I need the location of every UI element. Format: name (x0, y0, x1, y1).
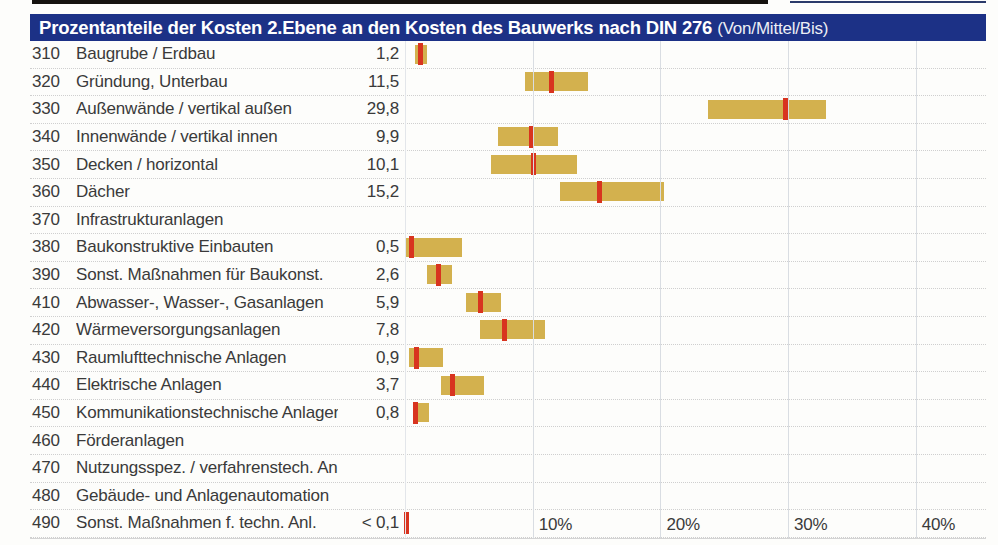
row-mittel-value: 0,5 (338, 237, 405, 257)
row-code: 340 (30, 127, 76, 147)
row-label: Abwasser-, Wasser-, Gasanlagen (76, 293, 338, 313)
table-row-380: 380Baukonstruktive Einbauten0,5 (30, 234, 986, 262)
table-row-320: 320Gründung, Unterbau11,5 (30, 69, 986, 97)
row-mittel-value: 15,2 (338, 182, 405, 202)
mittel-marker (783, 98, 788, 120)
mittel-marker (529, 126, 534, 148)
range-bar (441, 376, 484, 395)
mittel-marker (531, 153, 536, 175)
mittel-marker (502, 319, 507, 341)
row-chart-cell (405, 317, 986, 344)
table-row-410: 410Abwasser-, Wasser-, Gasanlagen5,9 (30, 289, 986, 317)
row-code: 440 (30, 375, 76, 395)
row-chart-cell (405, 96, 986, 123)
row-label: Dächer (76, 182, 338, 202)
table-row-470: 470Nutzungsspez. / verfahrenstech. Anl. (30, 455, 986, 483)
table-row-350: 350Decken / horizontal10,1 (30, 151, 986, 179)
row-mittel-value: 5,9 (338, 293, 405, 313)
row-label: Förderanlagen (76, 431, 338, 451)
range-bar (406, 238, 462, 257)
row-label: Kommunikationstechnische Anlagen (76, 403, 338, 423)
row-code: 410 (30, 293, 76, 313)
table-row-360: 360Dächer15,2 (30, 179, 986, 207)
table-row-450: 450Kommunikationstechnische Anlagen0,8 (30, 400, 986, 428)
table-row-440: 440Elektrische Anlagen3,7 (30, 372, 986, 400)
row-mittel-value: 3,7 (338, 375, 405, 395)
row-label: Sonst. Maßnahmen f. techn. Anl. (76, 513, 338, 533)
row-code: 450 (30, 403, 76, 423)
table-row-490: 490Sonst. Maßnahmen f. techn. Anl.< 0,1 (30, 510, 986, 538)
row-code: 360 (30, 182, 76, 202)
range-bar (560, 182, 665, 201)
row-chart-cell (405, 234, 986, 261)
row-code: 330 (30, 99, 76, 119)
row-chart-cell (405, 179, 986, 206)
range-bar (480, 320, 545, 339)
mittel-marker (414, 347, 419, 369)
row-code: 490 (30, 513, 76, 533)
row-chart-cell (405, 510, 986, 537)
row-code: 430 (30, 348, 76, 368)
row-chart-cell (405, 427, 986, 454)
row-chart-cell (405, 124, 986, 151)
row-mittel-value: 7,8 (338, 320, 405, 340)
row-label: Gebäude- und Anlagenautomation (76, 486, 338, 506)
row-code: 470 (30, 458, 76, 478)
row-chart-cell (405, 262, 986, 289)
table-row-390: 390Sonst. Maßnahmen für Baukonst.2,6 (30, 262, 986, 290)
row-code: 320 (30, 72, 76, 92)
row-chart-cell (405, 207, 986, 234)
row-mittel-value: < 0,1 (338, 513, 405, 533)
table-row-330: 330Außenwände / vertikal außen29,8 (30, 96, 986, 124)
row-chart-cell (405, 345, 986, 372)
row-mittel-value: 0,9 (338, 348, 405, 368)
row-chart-cell (405, 372, 986, 399)
row-chart-cell (405, 289, 986, 316)
scan-artifact-strip-left (32, 0, 768, 4)
table-row-430: 430Raumlufttechnische Anlagen0,9 (30, 345, 986, 373)
row-code: 380 (30, 237, 76, 257)
chart-rows-area: 310Baugrube / Erdbau1,2320Gründung, Unte… (30, 41, 986, 539)
row-label: Raumlufttechnische Anlagen (76, 348, 338, 368)
row-mittel-value: 10,1 (338, 155, 405, 175)
row-code: 370 (30, 210, 76, 230)
table-row-340: 340Innenwände / vertikal innen9,9 (30, 124, 986, 152)
mittel-marker (597, 181, 602, 203)
row-code: 350 (30, 155, 76, 175)
mittel-marker (478, 291, 483, 313)
row-label: Innenwände / vertikal innen (76, 127, 338, 147)
scan-artifact-strip-right (790, 1, 986, 3)
row-code: 310 (30, 44, 76, 64)
row-label: Decken / horizontal (76, 155, 338, 175)
chart-title: Prozentanteile der Kosten 2.Ebene an den… (39, 17, 712, 38)
mittel-marker (418, 43, 423, 65)
row-code: 480 (30, 486, 76, 506)
table-row-460: 460Förderanlagen (30, 427, 986, 455)
row-chart-cell (405, 483, 986, 510)
row-chart-cell (405, 455, 986, 482)
row-label: Gründung, Unterbau (76, 72, 338, 92)
range-bar (466, 293, 500, 312)
row-label: Elektrische Anlagen (76, 375, 338, 395)
table-row-480: 480Gebäude- und Anlagenautomation (30, 483, 986, 511)
mittel-marker (549, 71, 554, 93)
table-row-420: 420Wärmeversorgungsanlagen7,8 (30, 317, 986, 345)
table-row-370: 370Infrastrukturanlagen (30, 207, 986, 235)
row-label: Infrastrukturanlagen (76, 210, 338, 230)
row-mittel-value: 29,8 (338, 99, 405, 119)
row-mittel-value: 9,9 (338, 127, 405, 147)
row-mittel-value: 2,6 (338, 265, 405, 285)
din276-cost-share-figure: Prozentanteile der Kosten 2.Ebene an den… (30, 14, 986, 539)
mittel-marker (450, 374, 455, 396)
row-mittel-value: 11,5 (338, 72, 405, 92)
row-label: Außenwände / vertikal außen (76, 99, 338, 119)
chart-title-legend: (Von/Mittel/Bis) (717, 19, 828, 38)
row-label: Wärmeversorgungsanlagen (76, 320, 338, 340)
mittel-marker (404, 512, 409, 534)
row-chart-cell (405, 151, 986, 178)
mittel-marker (413, 402, 418, 424)
table-row-310: 310Baugrube / Erdbau1,2 (30, 41, 986, 69)
mittel-marker (409, 236, 414, 258)
row-label: Baugrube / Erdbau (76, 44, 338, 64)
row-chart-cell (405, 41, 986, 68)
